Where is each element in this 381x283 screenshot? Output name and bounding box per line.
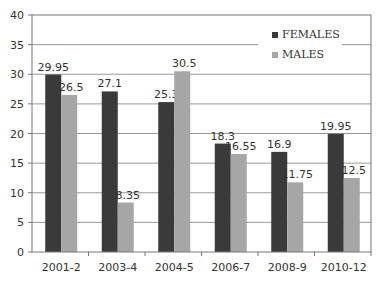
- data-label: 16.55: [225, 140, 257, 153]
- data-label: 16.9: [267, 138, 292, 151]
- bar-males-2010-12: [344, 178, 360, 252]
- legend: FEMALESMALES: [258, 25, 342, 71]
- x-tick-label: 2003-4: [98, 261, 137, 274]
- data-label: 11.75: [282, 168, 314, 181]
- y-tick-label: 20: [10, 128, 24, 141]
- x-tick-label: 2004-5: [155, 261, 194, 274]
- bar-males-2001-2: [61, 95, 77, 252]
- bar-males-2004-5: [174, 71, 190, 252]
- bar-males-2008-9: [287, 182, 303, 252]
- x-tick-label: 2001-2: [42, 261, 81, 274]
- legend-swatch-females: [272, 32, 278, 38]
- bar-females-2010-12: [328, 134, 344, 252]
- bar-females-2006-7: [215, 144, 231, 252]
- y-tick-label: 15: [10, 157, 24, 170]
- bar-females-2004-5: [158, 102, 174, 252]
- y-tick-label: 0: [17, 246, 24, 259]
- data-label: 30.5: [172, 57, 197, 70]
- x-tick-label: 2006-7: [211, 261, 250, 274]
- data-label: 26.5: [59, 81, 84, 94]
- gridlines: [32, 45, 371, 223]
- y-tick-label: 35: [10, 39, 24, 52]
- x-axis: 2001-22003-42004-52006-72008-92010-12: [42, 252, 371, 274]
- bar-females-2008-9: [271, 152, 287, 252]
- y-tick-label: 30: [10, 68, 24, 81]
- legend-swatch-males: [272, 52, 278, 58]
- y-axis: 0510152025303540: [10, 9, 32, 259]
- bar-males-2006-7: [231, 154, 247, 252]
- data-label: 27.1: [98, 77, 123, 90]
- y-tick-label: 25: [10, 98, 24, 111]
- legend-label-females: FEMALES: [282, 28, 340, 41]
- legend-label-males: MALES: [282, 48, 324, 61]
- data-label: 12.5: [342, 164, 367, 177]
- data-label: 29.95: [38, 61, 70, 74]
- y-tick-label: 10: [10, 187, 24, 200]
- y-tick-label: 5: [17, 216, 24, 229]
- data-label: 19.95: [320, 120, 352, 133]
- x-tick-label: 2010-12: [321, 261, 367, 274]
- y-tick-label: 40: [10, 9, 24, 22]
- bar-females-2003-4: [102, 91, 118, 252]
- data-label: 8.35: [116, 189, 141, 202]
- bar-females-2001-2: [45, 75, 61, 252]
- bar-males-2003-4: [118, 203, 134, 252]
- x-tick-label: 2008-9: [268, 261, 307, 274]
- bar-chart: 0510152025303540 29.9526.527.18.3525.330…: [0, 0, 381, 283]
